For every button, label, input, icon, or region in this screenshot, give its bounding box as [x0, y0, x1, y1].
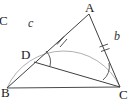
tick-marks-ac — [100, 44, 110, 52]
segment-bc — [7, 87, 120, 88]
geometry-figure: A B C D c b C — [0, 0, 134, 105]
segment-ba — [7, 14, 89, 88]
vertex-label-c: C — [119, 88, 128, 101]
outer-label-c: C — [0, 14, 8, 27]
vertex-label-a: A — [85, 1, 94, 14]
vertex-label-d: D — [21, 48, 30, 61]
side-label-c: c — [28, 17, 33, 29]
vertex-label-b: B — [1, 86, 10, 99]
side-label-b: b — [114, 30, 120, 42]
